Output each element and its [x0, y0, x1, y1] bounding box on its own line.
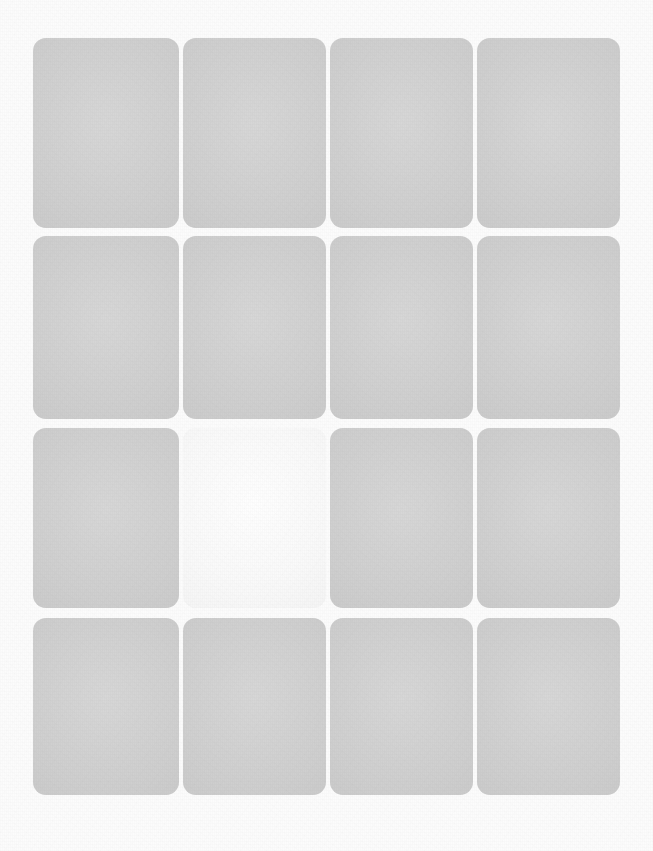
tile-r4c1[interactable]	[33, 618, 179, 795]
tile-r4c3[interactable]	[330, 618, 473, 795]
tile-r2c4[interactable]	[477, 236, 620, 419]
tile-r4c4[interactable]	[477, 618, 620, 795]
screen-canvas	[0, 0, 653, 851]
tile-r3c2[interactable]	[183, 428, 326, 608]
tile-r4c2[interactable]	[183, 618, 326, 795]
tile-r2c3[interactable]	[330, 236, 473, 419]
tile-r1c3[interactable]	[330, 38, 473, 228]
placeholder-tile-grid	[0, 0, 653, 851]
tile-r3c1[interactable]	[33, 428, 179, 608]
tile-r1c1[interactable]	[33, 38, 179, 228]
tile-r3c3[interactable]	[330, 428, 473, 608]
tile-r2c1[interactable]	[33, 236, 179, 419]
tile-r3c4[interactable]	[477, 428, 620, 608]
tile-r1c2[interactable]	[183, 38, 326, 228]
tile-r2c2[interactable]	[183, 236, 326, 419]
tile-r1c4[interactable]	[477, 38, 620, 228]
